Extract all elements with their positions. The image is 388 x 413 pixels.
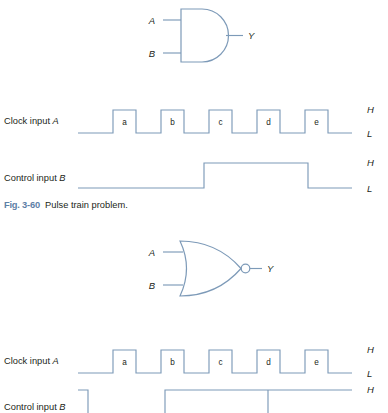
clock-a-top-low-label: L: [367, 128, 372, 139]
control-input-b-bottom-label: Control input B: [4, 402, 66, 412]
clock-input-a-bottom-label: Clock input A: [4, 356, 59, 366]
clock-input-a-top-label: Clock input A: [4, 116, 59, 126]
control-b-top-high-label: H: [367, 157, 374, 168]
nor-gate-input-a-label: A: [148, 247, 155, 258]
control-b-bottom-high-label: H: [367, 384, 374, 395]
and-gate-diagram: A B Y: [148, 9, 255, 62]
nor-gate-output-label: Y: [267, 263, 274, 274]
control-input-b-top-label: Control input B: [4, 173, 66, 183]
figure-number: Fig. 3-60: [4, 200, 40, 210]
control-input-b-top-row: Control input B H L: [4, 157, 374, 194]
clock-input-a-top-row: Clock input A a b c d e H L: [4, 104, 374, 139]
clock-a-bottom-high-label: H: [367, 344, 374, 355]
clock-a-top-pulse-d: d: [266, 118, 271, 127]
clock-a-top-pulse-e: e: [314, 118, 319, 127]
clock-a-bottom-pulse-d: d: [266, 358, 271, 367]
clock-a-bottom-pulse-c: c: [218, 358, 222, 367]
control-input-b-bottom-row: Control input B H: [4, 384, 374, 413]
and-gate-output-label: Y: [248, 30, 255, 41]
figure-page: A B Y Clock input A a b c d e H L Contro…: [0, 0, 388, 413]
clock-a-bottom-pulse-b: b: [170, 358, 175, 367]
nor-gate-body: [180, 241, 241, 296]
figure-caption-text: Pulse train problem.: [45, 200, 128, 210]
and-gate-input-a-label: A: [148, 15, 155, 26]
clock-input-a-top-waveform: [78, 110, 352, 133]
clock-a-top-pulse-b: b: [170, 118, 175, 127]
nor-gate-diagram: A B Y: [148, 241, 274, 296]
control-input-b-top-waveform: [78, 163, 352, 188]
and-gate-input-b-label: B: [149, 48, 156, 59]
figure-caption: Fig. 3-60 Pulse train problem.: [4, 200, 128, 210]
clock-a-top-pulse-c: c: [218, 118, 222, 127]
nor-gate-input-b-label: B: [149, 280, 156, 291]
clock-a-bottom-low-label: L: [367, 368, 372, 379]
control-input-b-bottom-waveform: [78, 390, 352, 413]
clock-a-top-pulse-a: a: [122, 118, 127, 127]
clock-a-bottom-pulse-a: a: [122, 358, 127, 367]
clock-input-a-bottom-row: Clock input A a b c d e H L: [4, 344, 374, 379]
and-gate-body: [181, 9, 229, 62]
clock-input-a-bottom-waveform: [78, 350, 352, 373]
nor-gate-inversion-bubble: [241, 264, 250, 273]
clock-a-bottom-pulse-e: e: [314, 358, 319, 367]
control-b-top-low-label: L: [367, 183, 372, 194]
clock-a-top-high-label: H: [367, 104, 374, 115]
